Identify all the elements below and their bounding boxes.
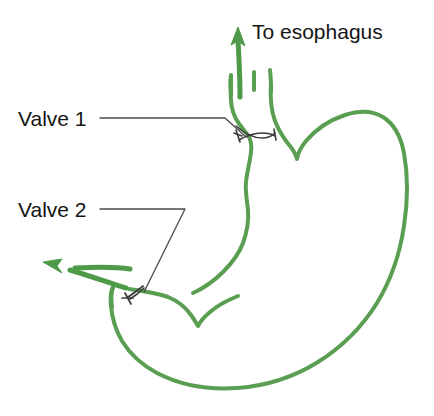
arrow-left-icon <box>43 259 130 288</box>
label-valve-2: Valve 2 <box>18 199 87 220</box>
label-valve-1: Valve 1 <box>18 108 87 129</box>
esophagus-wall-right <box>270 70 271 92</box>
stomach-lesser-curvature <box>193 88 251 293</box>
stomach-antrum-upper-wall <box>129 289 238 326</box>
valve-2-leader-line <box>100 209 185 292</box>
arrow-up-icon <box>231 27 245 97</box>
label-to-esophagus: To esophagus <box>252 21 383 42</box>
arrow-left-head <box>43 259 62 273</box>
arrow-up-shaft <box>238 40 240 97</box>
esophagus-wall-left <box>230 75 231 94</box>
arrow-left-shaft-upper <box>75 267 130 269</box>
stomach-greater-curvature <box>111 84 407 388</box>
valve-1-tick-right <box>274 129 276 140</box>
valve-1-leader-line <box>100 118 246 137</box>
esophagus-tube <box>230 70 271 94</box>
stomach-diagram-figure: To esophagus Valve 1 Valve 2 <box>0 0 434 416</box>
stomach-outline-icon <box>111 76 407 388</box>
stomach-pylorus-outer-wall <box>111 287 113 307</box>
arrow-left-shaft-lower <box>70 270 126 288</box>
